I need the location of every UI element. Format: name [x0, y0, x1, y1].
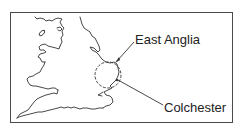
east-anglia-pointer-line: [117, 42, 134, 61]
colchester-label: Colchester: [164, 101, 226, 114]
colchester-pointer-line: [118, 80, 163, 105]
arrowhead-icon: [115, 57, 120, 63]
wales-south-coastline: [27, 62, 58, 90]
northwest-coastline: [35, 17, 64, 46]
isle-of-man: [38, 29, 45, 36]
south-coastline: [17, 107, 103, 118]
inland-feature: [57, 27, 62, 31]
colchester-marker-icon: [116, 79, 118, 81]
wales-west-coastline: [38, 44, 60, 62]
thames-estuary: [98, 92, 103, 96]
southwest-coastline: [17, 90, 58, 118]
east-anglia-label: East Anglia: [135, 33, 200, 46]
